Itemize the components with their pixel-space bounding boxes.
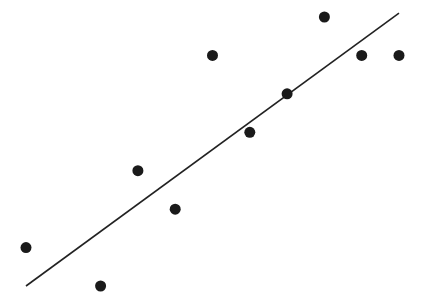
data-point (244, 127, 255, 138)
data-point (319, 12, 330, 23)
data-point (21, 242, 32, 253)
data-point (356, 50, 367, 61)
data-point (132, 165, 143, 176)
data-point (394, 50, 405, 61)
data-points (21, 12, 405, 292)
data-point (282, 88, 293, 99)
data-point (170, 204, 181, 215)
data-point (95, 281, 106, 292)
data-point (207, 50, 218, 61)
scatter-plot (0, 0, 427, 301)
